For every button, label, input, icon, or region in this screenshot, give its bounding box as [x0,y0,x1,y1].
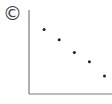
scatter-chart [0,0,112,104]
data-point [73,51,76,54]
data-point [58,38,61,41]
data-point [88,60,91,63]
data-point [43,28,46,31]
data-points [43,28,106,78]
data-point [103,74,106,77]
